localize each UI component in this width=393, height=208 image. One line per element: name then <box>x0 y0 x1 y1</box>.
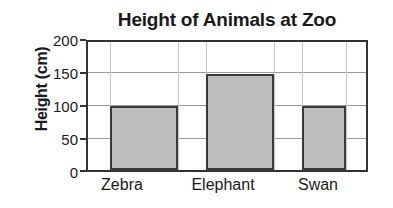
bar-chart-figure: Height of Animals at Zoo Height (cm) 200… <box>0 0 393 208</box>
y-tick-label-100: 100 <box>38 99 78 114</box>
y-tick-label-200: 200 <box>38 33 78 48</box>
bar-elephant <box>206 74 274 170</box>
x-tick-label-elephant: Elephant <box>178 176 268 194</box>
plot-area <box>86 40 368 172</box>
y-tick-label-150: 150 <box>38 66 78 81</box>
y-tick-label-0: 0 <box>38 165 78 180</box>
chart-title: Height of Animals at Zoo <box>86 9 368 31</box>
bar-swan <box>302 106 346 170</box>
y-tick-label-50: 50 <box>38 132 78 147</box>
x-tick-label-swan: Swan <box>285 176 351 194</box>
bars-layer <box>88 42 366 170</box>
bar-zebra <box>110 106 178 170</box>
x-tick-label-zebra: Zebra <box>88 176 156 194</box>
